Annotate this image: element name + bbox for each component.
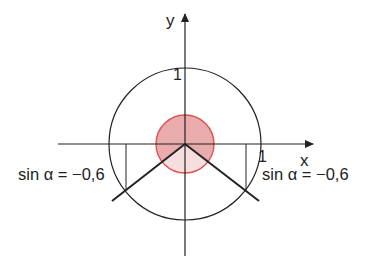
y-axis-label: y	[166, 11, 175, 30]
terminal-ray-left	[112, 144, 185, 201]
annotation-right: sin α = −0,6	[262, 165, 349, 183]
unit-circle-diagram: y x 1 1 sin α = −0,6 sin α = −0,6	[0, 0, 377, 266]
annotation-left: sin α = −0,6	[18, 165, 105, 183]
y-tick-label: 1	[173, 66, 182, 83]
diagram-canvas: y x 1 1 sin α = −0,6 sin α = −0,6	[0, 0, 377, 266]
x-tick-label: 1	[258, 148, 267, 165]
terminal-ray-right	[185, 144, 259, 201]
